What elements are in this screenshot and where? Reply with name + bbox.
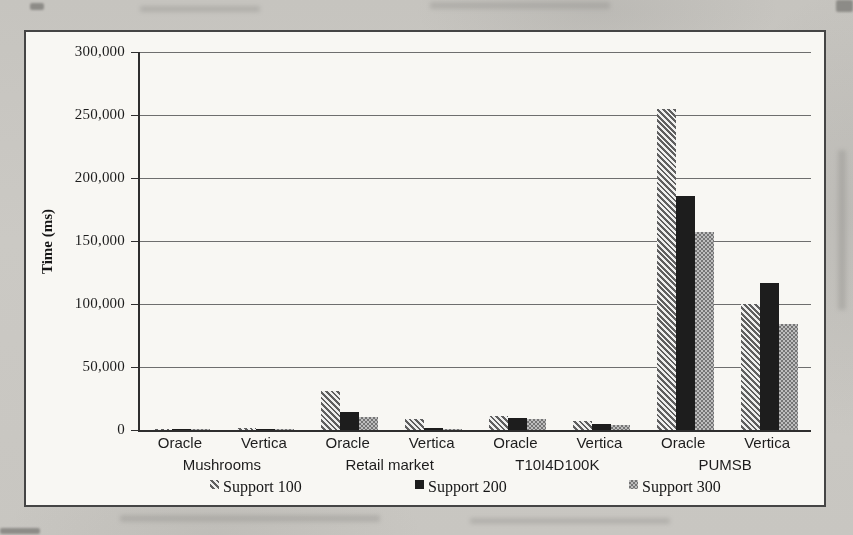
bar xyxy=(508,418,527,430)
chart-frame: Time (ms) 050,000100,000150,000200,00025… xyxy=(24,30,826,507)
scan-artifact xyxy=(0,528,40,534)
y-tick-label: 150,000 xyxy=(26,232,125,249)
y-axis-tick-labels: 050,000100,000150,000200,000250,000300,0… xyxy=(26,32,125,505)
y-tick-label: 300,000 xyxy=(26,43,125,60)
chart-legend: Support 100Support 200Support 300 xyxy=(26,478,824,502)
y-tick-label: 250,000 xyxy=(26,106,125,123)
legend-swatch xyxy=(210,480,219,489)
scan-artifact xyxy=(470,518,670,524)
category-label: Vertica xyxy=(390,434,474,451)
bar xyxy=(573,421,592,430)
category-label: Vertica xyxy=(725,434,809,451)
group-label: Retail market xyxy=(306,456,474,473)
bar xyxy=(153,429,172,431)
group-label: PUMSB xyxy=(641,456,809,473)
gridline xyxy=(140,178,811,179)
legend-swatch xyxy=(629,480,638,489)
legend-label: Support 200 xyxy=(428,478,507,496)
group-label: Mushrooms xyxy=(138,456,306,473)
y-tick-label: 100,000 xyxy=(26,295,125,312)
bar xyxy=(172,429,191,430)
bar xyxy=(592,424,611,430)
bar xyxy=(424,428,443,430)
y-axis-tick-mark xyxy=(131,430,139,431)
bar xyxy=(611,425,630,430)
y-axis-tick-mark xyxy=(131,178,139,179)
bar xyxy=(695,232,714,430)
y-tick-label: 0 xyxy=(26,421,125,438)
plot-area xyxy=(138,52,811,432)
gridline xyxy=(140,52,811,53)
scan-artifact xyxy=(140,6,260,12)
y-tick-label: 50,000 xyxy=(26,358,125,375)
scan-artifact xyxy=(430,2,610,9)
bar xyxy=(321,391,340,430)
legend-item: Support 300 xyxy=(629,478,721,496)
bar xyxy=(657,109,676,430)
bar xyxy=(237,428,256,430)
legend-item: Support 100 xyxy=(210,478,302,496)
x-axis-group-labels: MushroomsRetail marketT10I4D100KPUMSB xyxy=(138,456,809,475)
bar xyxy=(359,417,378,430)
scan-artifact xyxy=(120,515,380,522)
y-axis-tick-mark xyxy=(131,115,139,116)
scan-artifact xyxy=(836,0,853,12)
category-label: Oracle xyxy=(474,434,558,451)
scan-artifact xyxy=(838,150,846,310)
legend-label: Support 100 xyxy=(223,478,302,496)
bar xyxy=(676,196,695,430)
bar xyxy=(489,416,508,430)
y-tick-label: 200,000 xyxy=(26,169,125,186)
legend-item: Support 200 xyxy=(415,478,507,496)
gridline xyxy=(140,115,811,116)
bar xyxy=(340,412,359,430)
y-axis-tick-mark xyxy=(131,52,139,53)
bar xyxy=(405,419,424,430)
bar xyxy=(779,324,798,430)
category-label: Oracle xyxy=(641,434,725,451)
bar xyxy=(275,429,294,430)
bar xyxy=(256,429,275,430)
category-label: Vertica xyxy=(222,434,306,451)
group-label: T10I4D100K xyxy=(474,456,642,473)
category-label: Oracle xyxy=(306,434,390,451)
category-label: Oracle xyxy=(138,434,222,451)
category-label: Vertica xyxy=(557,434,641,451)
scan-artifact xyxy=(30,3,44,10)
bar xyxy=(443,429,462,430)
legend-swatch xyxy=(415,480,424,489)
y-axis-tick-mark xyxy=(131,241,139,242)
legend-label: Support 300 xyxy=(642,478,721,496)
x-axis-category-labels: OracleVerticaOracleVerticaOracleVerticaO… xyxy=(138,434,809,453)
bar xyxy=(741,304,760,430)
bar xyxy=(191,429,210,430)
bar xyxy=(527,419,546,430)
y-axis-tick-mark xyxy=(131,367,139,368)
y-axis-tick-mark xyxy=(131,304,139,305)
bar xyxy=(760,283,779,430)
